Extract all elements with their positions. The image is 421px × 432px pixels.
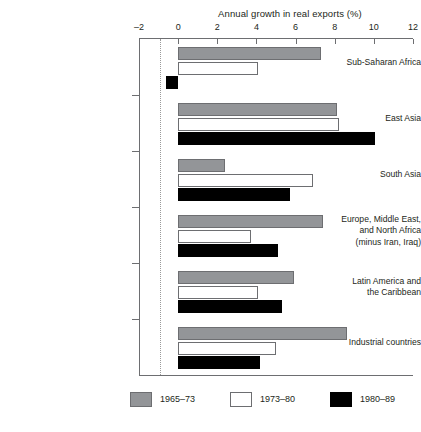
bar: [178, 271, 293, 284]
x-tick-label: –2: [134, 22, 144, 32]
legend-label: 1965–73: [160, 394, 195, 404]
x-tick-label: 10: [369, 22, 379, 32]
bar: [178, 300, 282, 313]
bar: [178, 342, 276, 355]
x-tick-label: 2: [215, 22, 220, 32]
legend-item[interactable]: 1965–73: [130, 390, 195, 408]
chart-title: Annual growth in real exports (%): [160, 8, 420, 19]
x-tick-label: 12: [408, 22, 418, 32]
bar-chart: Annual growth in real exports (%) –20246…: [0, 0, 421, 432]
bar: [178, 159, 225, 172]
x-tick-label: 0: [176, 22, 181, 32]
bar: [178, 215, 323, 228]
category-separator-tick: [132, 207, 140, 208]
zero-reference-line: [160, 39, 162, 375]
bar: [178, 327, 347, 340]
bar: [178, 230, 250, 243]
bar: [178, 244, 278, 257]
legend-item[interactable]: 1973–80: [230, 390, 295, 408]
category-label: Latin America andthe Caribbean: [291, 276, 421, 299]
bar: [178, 47, 321, 60]
legend-item[interactable]: 1980–89: [330, 390, 395, 408]
x-axis-baseline: [139, 375, 413, 376]
bar: [178, 132, 375, 145]
x-tick-label: 8: [332, 22, 337, 32]
bar: [178, 356, 260, 369]
bar: [178, 188, 290, 201]
legend-swatch-icon: [230, 392, 252, 407]
chart-legend: 1965–731973–801980–89: [130, 390, 421, 412]
category-separator-tick: [132, 263, 140, 264]
x-tick-label: 4: [254, 22, 259, 32]
category-separator-tick: [132, 319, 140, 320]
category-separator-tick: [132, 95, 140, 96]
x-tick-label: 6: [293, 22, 298, 32]
bar: [178, 174, 313, 187]
legend-swatch-icon: [330, 392, 352, 407]
x-tick-mark: [413, 39, 414, 44]
legend-label: 1973–80: [260, 394, 295, 404]
bar: [166, 76, 178, 89]
bar: [178, 103, 337, 116]
bar: [178, 118, 338, 131]
legend-label: 1980–89: [360, 394, 395, 404]
plot-area: [139, 39, 413, 375]
legend-swatch-icon: [130, 392, 152, 407]
bar: [178, 286, 258, 299]
bar: [178, 62, 258, 75]
category-separator-tick: [132, 151, 140, 152]
